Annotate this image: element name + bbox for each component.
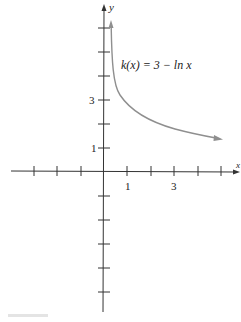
y-tick-label-1: 1: [91, 143, 97, 154]
y-axis: [103, 8, 104, 312]
y-tick-label-3: 3: [89, 95, 95, 106]
x-tick-label-3: 3: [171, 181, 177, 192]
x-tick-label-1: 1: [125, 181, 131, 192]
x-axis-label: x: [236, 160, 240, 171]
function-label: k(x) = 3 − ln x: [121, 60, 192, 71]
caption-smudge: [8, 314, 48, 317]
graph-canvas: [0, 0, 241, 322]
x-axis: [11, 171, 236, 172]
function-curve: [111, 27, 216, 138]
y-axis-label: y: [109, 2, 114, 13]
y-axis-arrow-icon: [102, 4, 107, 11]
curve-start-arrow-icon: [109, 20, 114, 28]
curve-end-arrow-icon: [214, 135, 224, 141]
